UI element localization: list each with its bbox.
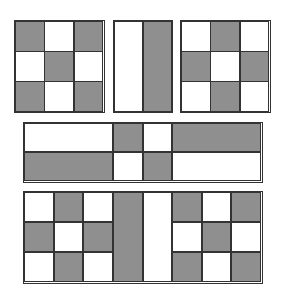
white-square bbox=[54, 222, 84, 252]
top-left-checker bbox=[14, 20, 105, 113]
bottom-band bbox=[23, 191, 263, 284]
middle-band bbox=[23, 122, 263, 183]
gray-square bbox=[181, 51, 211, 82]
white-square bbox=[231, 222, 261, 252]
white-square bbox=[172, 152, 261, 181]
gray-square bbox=[210, 21, 240, 52]
gray-square bbox=[74, 21, 104, 52]
gray-square bbox=[210, 81, 240, 112]
white-square bbox=[24, 123, 113, 152]
white-square bbox=[74, 51, 104, 82]
gray-square bbox=[202, 222, 232, 252]
gray-square bbox=[231, 252, 261, 282]
gray-square bbox=[44, 51, 74, 82]
white-square bbox=[44, 21, 74, 52]
gray-square bbox=[143, 152, 172, 181]
gray-square bbox=[113, 123, 143, 152]
white-square bbox=[15, 51, 45, 82]
gray-square bbox=[143, 21, 172, 112]
white-square bbox=[113, 152, 143, 181]
gray-square bbox=[113, 192, 143, 282]
gray-square bbox=[240, 51, 270, 82]
gray-square bbox=[54, 252, 84, 282]
white-square bbox=[114, 21, 143, 112]
gray-square bbox=[83, 222, 113, 252]
white-square bbox=[210, 51, 240, 82]
gray-square bbox=[172, 123, 261, 152]
gray-square bbox=[172, 192, 202, 222]
gray-square bbox=[74, 81, 104, 112]
white-square bbox=[181, 81, 211, 112]
gray-square bbox=[231, 192, 261, 222]
white-square bbox=[24, 192, 54, 222]
gray-square bbox=[24, 222, 54, 252]
gray-square bbox=[15, 21, 45, 52]
white-square bbox=[240, 81, 270, 112]
white-square bbox=[44, 81, 74, 112]
gray-square bbox=[172, 252, 202, 282]
top-middle-stripes bbox=[113, 20, 173, 113]
gray-square bbox=[54, 192, 84, 222]
white-square bbox=[143, 192, 172, 282]
top-right-checker bbox=[180, 20, 271, 113]
white-square bbox=[202, 192, 232, 222]
white-square bbox=[202, 252, 232, 282]
white-square bbox=[181, 21, 211, 52]
gray-square bbox=[24, 152, 113, 181]
white-square bbox=[240, 21, 270, 52]
white-square bbox=[83, 192, 113, 222]
white-square bbox=[172, 222, 202, 252]
white-square bbox=[24, 252, 54, 282]
white-square bbox=[83, 252, 113, 282]
white-square bbox=[143, 123, 172, 152]
gray-square bbox=[15, 81, 45, 112]
